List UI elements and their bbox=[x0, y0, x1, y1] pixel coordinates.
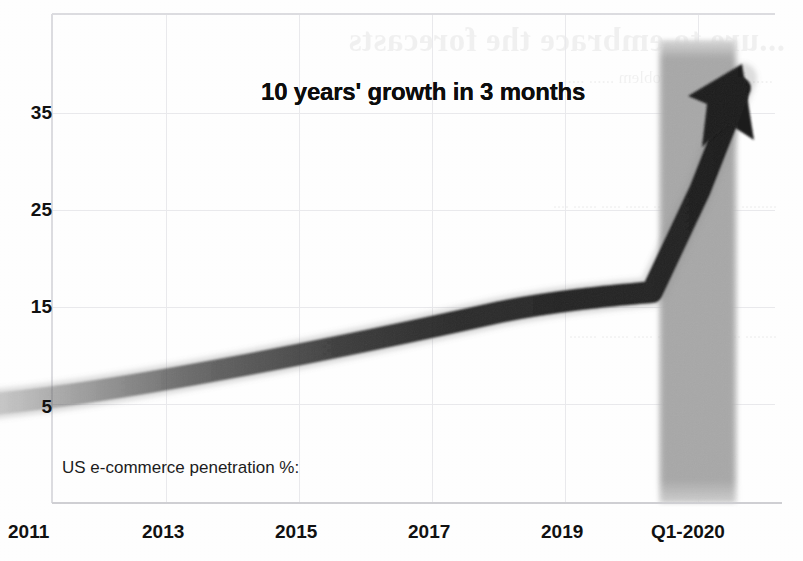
x-tick-2011: 2011 bbox=[8, 521, 49, 543]
x-tick-q1-2020: Q1-2020 bbox=[651, 521, 725, 543]
series-caption: US e-commerce penetration %: bbox=[62, 458, 299, 478]
chart-page: ...ure to embrace the forecasts ......in… bbox=[0, 0, 803, 561]
x-tick-2019: 2019 bbox=[541, 521, 583, 543]
ink-grain bbox=[0, 40, 740, 503]
y-tick-15: 15 bbox=[10, 296, 52, 318]
data-series-line bbox=[0, 78, 742, 404]
x-tick-2017: 2017 bbox=[408, 521, 450, 543]
y-tick-5: 5 bbox=[10, 396, 52, 418]
y-tick-35: 35 bbox=[10, 102, 52, 124]
growth-callout-text: 10 years' growth in 3 months bbox=[261, 78, 585, 106]
x-tick-2015: 2015 bbox=[275, 521, 317, 543]
chart: 35 25 15 5 2011 2013 2015 2017 2019 Q1-2… bbox=[0, 0, 803, 561]
x-tick-2013: 2013 bbox=[142, 521, 184, 543]
y-tick-25: 25 bbox=[10, 199, 52, 221]
y-axis: 35 25 15 5 bbox=[0, 0, 52, 561]
